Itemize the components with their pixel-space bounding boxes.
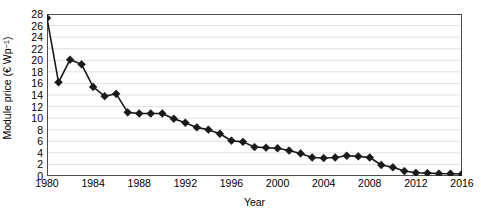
data-point-marker [412,169,420,176]
data-point-marker [424,169,432,176]
data-point-marker [228,137,236,145]
data-point-marker [124,108,132,116]
y-tick-label: 20 [31,55,43,66]
y-tick-label: 14 [31,90,43,101]
data-point-marker [400,167,408,175]
data-point-marker [55,78,63,86]
y-tick-label: 4 [37,148,43,159]
x-tick-label: 1984 [81,178,104,189]
data-point-marker [170,115,178,123]
x-tick-label: 2008 [358,178,381,189]
y-tick-label: 2 [37,159,43,170]
data-point-marker [447,170,455,176]
y-tick-label: 8 [37,124,43,135]
data-point-marker [193,124,201,132]
plot-area [47,14,462,176]
x-tick-label: 2004 [312,178,335,189]
y-tick-label: 26 [31,20,43,31]
data-point-marker [47,14,51,22]
data-point-marker [78,60,86,68]
x-tick-label: 2016 [450,178,473,189]
chart-figure: Module price (€ Wp−1) 024681012141618202… [0,0,481,215]
x-tick-label: 2012 [404,178,427,189]
data-point-marker [204,126,212,134]
data-point-marker [135,110,143,118]
data-point-marker [297,150,305,158]
x-tick-label: 2000 [266,178,289,189]
y-tick-label: 6 [37,136,43,147]
chart-plot-svg [47,14,462,176]
y-tick-label: 18 [31,67,43,78]
x-tick-label: 1988 [128,178,151,189]
data-point-marker [308,154,316,162]
y-tick-label: 24 [31,32,43,43]
y-axis-title-tail: ) [1,36,13,40]
y-tick-label: 28 [31,9,43,20]
data-point-marker [158,110,166,118]
x-axis-title: Year [47,196,462,208]
data-point-marker [285,147,293,155]
y-axis-title: Module price (€ Wp−1) [0,0,14,176]
data-point-marker [435,170,443,176]
x-tick-label: 1996 [220,178,243,189]
x-tick-label: 1992 [174,178,197,189]
data-point-marker [66,56,74,64]
data-point-marker [147,110,155,118]
data-point-marker [251,143,259,151]
x-axis-tick-labels: 1980198419881992199620002004200820122016 [0,178,481,194]
data-point-marker [274,144,282,152]
data-point-marker [331,154,339,162]
x-tick-label: 1980 [35,178,58,189]
data-point-marker [354,152,362,160]
data-point-marker [320,154,328,162]
data-point-marker [216,130,224,138]
y-tick-label: 10 [31,113,43,124]
y-tick-label: 22 [31,43,43,54]
data-point-marker [181,119,189,127]
data-point-marker [112,90,120,98]
data-point-marker [239,138,247,146]
y-axis-title-text: Module price (€ Wp [1,49,13,140]
y-tick-label: 16 [31,78,43,89]
y-tick-label: 12 [31,101,43,112]
data-point-marker [262,144,270,152]
